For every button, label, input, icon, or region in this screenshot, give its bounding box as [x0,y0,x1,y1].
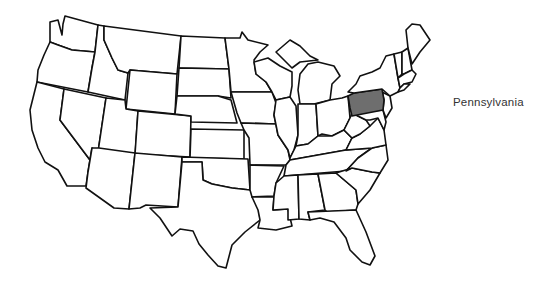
state-wyoming [126,70,177,114]
state-new-mexico [129,153,182,209]
us-map [0,0,551,287]
state-montana [104,26,181,74]
state-kansas [190,129,244,159]
state-florida [308,210,375,265]
state-colorado [135,111,191,157]
state-arizona [86,148,135,209]
state-south-dakota [177,68,231,98]
state-new-york [348,54,400,96]
state-iowa [231,92,276,124]
state-north-dakota [179,36,229,69]
state-label: Pennsylvania [453,96,524,108]
